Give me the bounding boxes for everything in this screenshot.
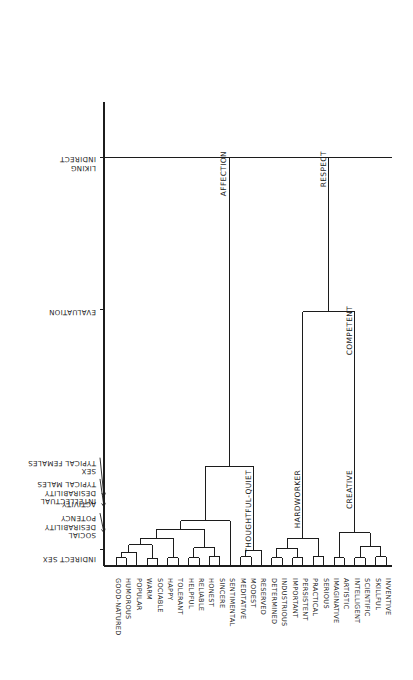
axis-annotation-label: LIKING	[71, 164, 96, 173]
leaf-label: HONEST	[207, 578, 215, 608]
axis-annotation-label: DESIRABILITY	[44, 523, 96, 532]
leaf-labels-group: GOOD-NATUREDHUMOROUSPOPULARWARMSOCIABLEH…	[114, 577, 392, 636]
axis-annotation-label: SOCIAL	[68, 531, 96, 540]
leaf-label: SOCIABLE	[156, 578, 164, 613]
leaf-label: SINCERE	[218, 578, 226, 608]
axis-annotation-label: EVALUATION	[49, 308, 96, 317]
leaf-label: DETERMINED	[270, 578, 278, 624]
leaf-label: SCIENTIFIC	[363, 578, 371, 617]
leaf-label: RESERVED	[259, 578, 267, 615]
axis-annotation-label: TYPICAL FEMALES	[28, 459, 97, 468]
leaf-label: POPULAR	[135, 578, 143, 611]
leaf-label: WARM	[145, 578, 153, 600]
cluster-label: COMPETENT	[345, 306, 354, 355]
leaf-label: PRACTICAL	[311, 578, 319, 616]
cluster-label: HARDWORKER	[293, 470, 302, 528]
cluster-label: RESPECT	[319, 151, 328, 187]
axis-annotation-label: SEX	[81, 467, 96, 476]
leaf-label: SERIOUS	[322, 578, 330, 609]
leaf-label: RELIABLE	[197, 578, 205, 611]
leaf-label: TOLERANT	[176, 577, 184, 616]
axis-annotation-label: ACTIVITY	[62, 500, 96, 509]
leaf-label: IMAGINATIVE	[332, 578, 340, 623]
leaf-label: GOOD-NATURED	[114, 578, 122, 636]
leaf-label: INDUSTRIOUS	[280, 578, 288, 626]
cluster-label: AFFECTION	[220, 151, 229, 196]
axis-annotation-label: DESIRABILITY	[44, 489, 96, 498]
leaf-label: HELPFUL	[187, 578, 195, 609]
dendrogram-svg: GOOD-NATUREDHUMOROUSPOPULARWARMSOCIABLEH…	[0, 0, 413, 680]
axis-annotation-label: POTENCY	[60, 514, 96, 523]
axis-annotation-label: TYPICAL MALES	[37, 480, 97, 489]
leaf-label: INVENTIVE	[384, 578, 392, 615]
leaf-label: MEDITATIVE	[239, 578, 247, 620]
dendrogram-figure: GOOD-NATUREDHUMOROUSPOPULARWARMSOCIABLEH…	[0, 0, 413, 680]
axis-labels-group: INDIRECTLIKINGEVALUATIONTYPICAL FEMALESS…	[28, 155, 106, 564]
leaf-label: MODEST	[249, 578, 257, 609]
leaf-label: HAPPY	[166, 578, 174, 601]
cluster-label: THOUGHTFUL-QUIET	[244, 470, 253, 554]
cluster-labels-group: AFFECTIONRESPECTCOMPETENTTHOUGHTFUL-QUIE…	[220, 151, 354, 554]
leaf-label: SKILLFUL	[374, 578, 382, 610]
axis-annotation-label: INDIRECT SEX	[43, 555, 96, 564]
leaf-label: SENTIMENTAL	[228, 578, 236, 627]
leaf-label: ARTISTIC	[342, 578, 350, 609]
cluster-label: CREATIVE	[345, 470, 354, 509]
leaf-label: PERSISTENT	[301, 578, 309, 621]
leaf-label: IMPORTANT	[291, 578, 299, 619]
axis-annotation-label: INDIRECT	[60, 155, 96, 164]
leaf-label: HUMOROUS	[124, 578, 132, 619]
leaf-label: INTELLIGENT	[353, 578, 361, 624]
